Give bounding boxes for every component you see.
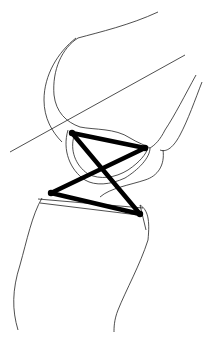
pivot-femur-posterior <box>142 145 148 151</box>
tibia-outline-anterior <box>14 198 42 330</box>
pivot-femur-anterior <box>69 130 75 136</box>
knee-linkage-diagram <box>0 0 210 342</box>
tibia-spine <box>140 205 146 230</box>
femur-outline <box>54 12 158 148</box>
patella-outer-outline <box>160 82 202 151</box>
patella-outline <box>150 75 196 148</box>
linkage-bars <box>51 133 145 214</box>
pcl-link <box>51 148 145 193</box>
pivot-tibia-anterior <box>48 190 54 196</box>
femur-outer-outline <box>44 38 76 142</box>
tibia-outline-posterior <box>114 205 149 332</box>
pivot-tibia-posterior <box>137 211 143 217</box>
